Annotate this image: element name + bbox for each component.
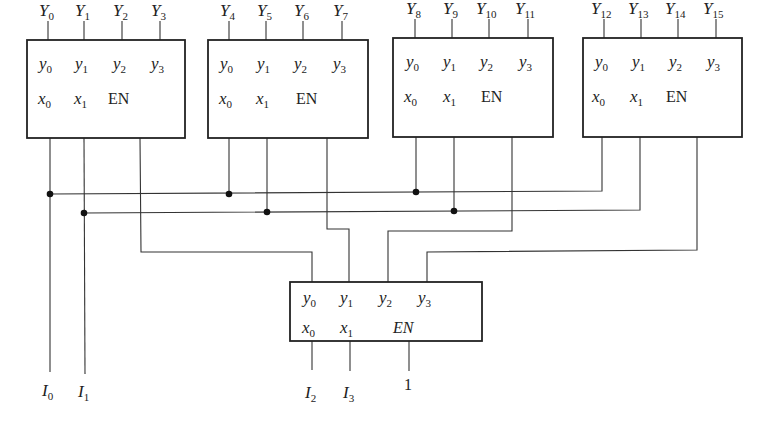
pin-en: EN <box>666 88 688 105</box>
input-label-I1: I1 <box>77 382 89 403</box>
input-label-I2: I2 <box>304 383 316 404</box>
output-label-Y11: Y11 <box>515 0 535 20</box>
bottom-inputs <box>312 341 409 371</box>
input-labels: I0I1I2I31 <box>41 376 412 404</box>
input-label-I3: I3 <box>342 383 355 404</box>
decoder-box <box>583 38 742 137</box>
decoder-select: y0y1y2y3x0x1EN <box>290 282 482 341</box>
pin-en: EN <box>481 88 503 105</box>
pin-en: EN <box>392 319 415 336</box>
pin-en: EN <box>108 90 130 107</box>
output-label-Y7: Y7 <box>333 1 348 22</box>
output-label-Y15: Y15 <box>703 0 724 20</box>
output-label-Y9: Y9 <box>443 0 458 20</box>
junction-dot <box>413 189 420 196</box>
output-label-Y13: Y13 <box>628 0 649 20</box>
junction-dot <box>226 191 233 198</box>
decoder-circuit-diagram: Y0Y1Y2Y3y0y1y2y3x0x1ENY4Y5Y6Y7y0y1y2y3x0… <box>0 0 760 423</box>
output-stubs <box>48 19 716 40</box>
decoder-box <box>208 40 368 138</box>
pin-en: EN <box>296 90 318 107</box>
output-label-Y4: Y4 <box>220 1 235 22</box>
decoder-0: Y0Y1Y2Y3y0y1y2y3x0x1EN <box>27 1 185 138</box>
enable-constant-label: 1 <box>404 376 412 393</box>
decoder-2: Y8Y9Y10Y11y0y1y2y3x0x1EN <box>393 0 553 137</box>
enable-routing <box>140 137 697 282</box>
output-label-Y2: Y2 <box>113 1 128 22</box>
output-label-Y5: Y5 <box>257 1 272 22</box>
output-label-Y8: Y8 <box>406 0 421 20</box>
junction-dot <box>264 209 271 216</box>
decoder-box <box>393 38 553 137</box>
output-label-Y1: Y1 <box>75 1 90 22</box>
output-label-Y0: Y0 <box>39 1 54 22</box>
decoder-box <box>27 40 185 138</box>
output-label-Y12: Y12 <box>591 0 611 20</box>
decoder-3: Y12Y13Y14Y15y0y1y2y3x0x1EN <box>583 0 742 137</box>
decoder-1: Y4Y5Y6Y7y0y1y2y3x0x1EN <box>208 1 368 138</box>
junction-dot <box>451 208 458 215</box>
output-label-Y10: Y10 <box>476 0 497 20</box>
junction-dot <box>81 210 88 217</box>
output-label-Y6: Y6 <box>294 1 309 22</box>
output-label-Y3: Y3 <box>151 1 166 22</box>
junction-dot <box>47 191 54 198</box>
input-label-I0: I0 <box>41 381 54 402</box>
output-label-Y14: Y14 <box>665 0 686 20</box>
